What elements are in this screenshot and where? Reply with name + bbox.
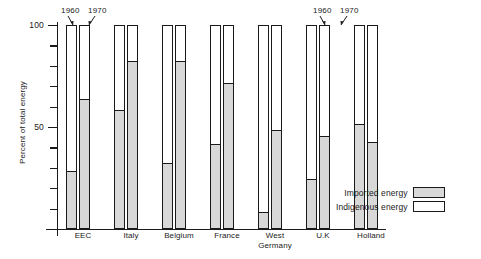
bar-fill-imported-eec-1970 [80, 99, 89, 228]
bar-eec-1960 [66, 25, 77, 229]
bar-group-france: France [210, 25, 234, 229]
energy-stacked-bar-chart: Percent of total energy 50100 EECItalyBe… [0, 0, 481, 259]
legend-label-imported: Imported energy [344, 188, 407, 198]
bar-group-eec: EEC [66, 25, 90, 229]
bar-italy-1970 [127, 25, 138, 229]
bar-fill-imported-france-1970 [224, 83, 233, 228]
bar-fill-imported-west-germany-1960 [259, 212, 268, 228]
x-axis-label-holland: Holland [336, 231, 406, 241]
bar-group-italy: Italy [114, 25, 138, 229]
legend: Imported energy Indigenous energy [336, 186, 445, 214]
legend-label-indigenous: Indigenous energy [336, 202, 408, 212]
bar-group-belgium: Belgium [162, 25, 186, 229]
legend-item-imported: Imported energy [336, 186, 445, 199]
bar-fill-imported-u-k-1960 [307, 179, 316, 228]
legend-swatch-imported [413, 187, 445, 198]
year-callout-arrows-left [60, 16, 110, 28]
plot-area: EECItalyBelgiumFranceWestGermanyU.KHolla… [0, 0, 481, 259]
legend-item-indigenous: Indigenous energy [336, 200, 445, 213]
bar-fill-imported-belgium-1970 [176, 61, 185, 228]
bar-fill-imported-france-1960 [211, 144, 220, 228]
bar-group-west-germany: WestGermany [258, 25, 282, 229]
bar-fill-imported-belgium-1960 [163, 163, 172, 228]
bar-fill-imported-west-germany-1970 [272, 130, 281, 228]
year-annotation-1970-left: 1970 [88, 6, 107, 15]
bar-france-1960 [210, 25, 221, 229]
bar-eec-1970 [79, 25, 90, 229]
bar-fill-imported-italy-1970 [128, 61, 137, 228]
bar-west-germany-1970 [271, 25, 282, 229]
bar-fill-imported-u-k-1970 [320, 136, 329, 228]
bar-france-1970 [223, 25, 234, 229]
year-annotation-1960-right: 1960 [313, 6, 332, 15]
bar-fill-imported-eec-1960 [67, 171, 76, 228]
year-callout-arrows-right [312, 16, 362, 28]
bar-italy-1960 [114, 25, 125, 229]
bar-u-k-1970 [319, 25, 330, 229]
bar-west-germany-1960 [258, 25, 269, 229]
year-annotation-1970-right: 1970 [340, 6, 359, 15]
legend-swatch-indigenous [413, 201, 445, 212]
bar-group-u-k: U.K [306, 25, 330, 229]
bar-u-k-1960 [306, 25, 317, 229]
bar-fill-imported-italy-1960 [115, 110, 124, 228]
year-annotation-1960-left: 1960 [61, 6, 80, 15]
bar-belgium-1960 [162, 25, 173, 229]
bar-belgium-1970 [175, 25, 186, 229]
